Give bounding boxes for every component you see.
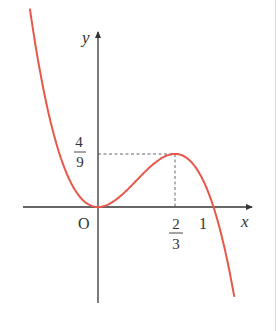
y-max-fraction-label: 4 9 [74,134,86,170]
x-max-denominator: 3 [172,236,180,252]
origin-label: O [78,215,90,232]
cubic-function-graph: y x O 4 9 2 3 1 [0,0,278,331]
x-one-label: 1 [199,215,207,232]
x-axis-label: x [240,212,249,231]
x-max-fraction-label: 2 3 [169,216,183,252]
x-max-numerator: 2 [172,216,180,232]
y-max-numerator: 4 [75,134,83,150]
right-border [275,0,276,331]
y-axis-label: y [80,28,90,47]
y-max-denominator: 9 [76,154,84,170]
function-curve [30,9,234,297]
